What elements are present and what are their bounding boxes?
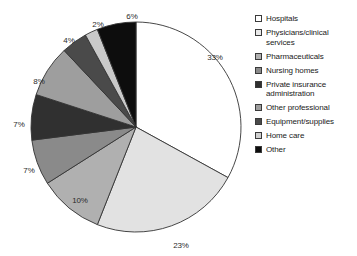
legend-swatch-icon [255,29,262,36]
legend-item[interactable]: Equipment/supplies [255,117,355,127]
pie-slice-percent-label: 8% [33,77,44,86]
legend-item-label: Equipment/supplies [266,117,334,127]
legend-swatch-icon [255,67,262,74]
legend-item[interactable]: Pharmaceuticals [255,52,355,62]
legend-swatch-icon [255,104,262,111]
legend-item[interactable]: Physicians/clinical services [255,28,355,47]
pie-svg [0,0,250,256]
legend-item-label: Hospitals [266,14,298,24]
legend-item[interactable]: Nursing homes [255,66,355,76]
legend-item-label: Other professional [266,103,330,113]
pie-slice-percent-label: 23% [173,241,189,250]
legend-swatch-icon [255,81,262,88]
legend-item-label: Home care [266,131,304,141]
pie-plot-area: 33%23%10%7%7%8%4%2%6% [0,0,250,256]
pie-slice-percent-label: 10% [72,196,88,205]
pie-slice-percent-label: 33% [207,53,223,62]
legend-swatch-icon [255,146,262,153]
pie-chart-figure: 33%23%10%7%7%8%4%2%6% HospitalsPhysician… [0,0,357,256]
legend-item[interactable]: Home care [255,131,355,141]
pie-slice-percent-label: 2% [92,20,103,29]
legend-swatch-icon [255,53,262,60]
pie-slice-percent-label: 7% [23,166,34,175]
legend-swatch-icon [255,15,262,22]
legend-item-label: Private insurance administration [266,80,355,99]
legend-item[interactable]: Other [255,145,355,155]
legend-item-label: Nursing homes [266,66,319,76]
pie-slice-percent-label: 4% [63,36,74,45]
legend-item-label: Pharmaceuticals [266,52,324,62]
legend-item-label: Physicians/clinical services [266,28,355,47]
legend-item-label: Other [266,145,286,155]
legend-item[interactable]: Other professional [255,103,355,113]
legend-item[interactable]: Private insurance administration [255,80,355,99]
pie-slice-percent-label: 7% [13,120,24,129]
legend-swatch-icon [255,118,262,125]
chart-legend: HospitalsPhysicians/clinical servicesPha… [255,14,355,159]
legend-swatch-icon [255,132,262,139]
legend-item[interactable]: Hospitals [255,14,355,24]
pie-slice-percent-label: 6% [126,12,137,21]
